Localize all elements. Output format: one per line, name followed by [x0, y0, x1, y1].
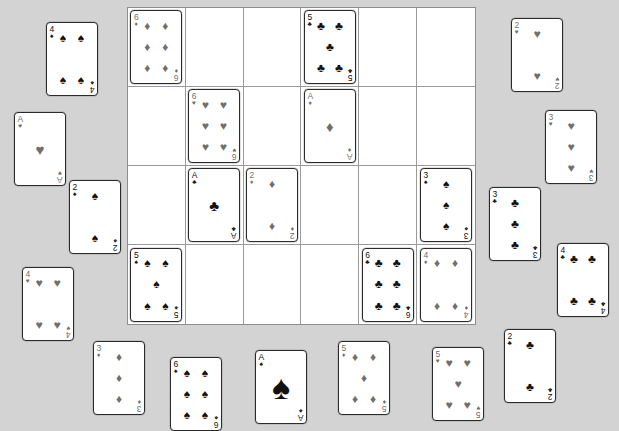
- card-suit-clubs-icon: ♣: [601, 300, 605, 307]
- grid-cell-r2-c3[interactable]: [301, 166, 359, 245]
- card-pip-hearts-icon: ♥: [220, 120, 227, 132]
- card-2-diamonds[interactable]: 2♦2♦♦♦: [246, 168, 298, 242]
- card-pip-hearts-icon: ♥: [202, 99, 209, 111]
- card-suit-spades-icon: ♠: [175, 304, 178, 311]
- card-pip-diamonds-icon: ♦: [162, 20, 168, 32]
- card-4-diamonds[interactable]: 4♦4♦♦♦♦♦: [420, 248, 472, 322]
- card-pip-diamonds-icon: ♦: [434, 300, 440, 312]
- card-3-spades[interactable]: 3♠3♠♠♠♠: [420, 168, 472, 242]
- card-pip-hearts-icon: ♥: [463, 399, 470, 411]
- grid-cell-r1-c1[interactable]: 6♥6♥♥♥♥♥♥♥: [186, 87, 244, 166]
- grid-cell-r1-c3[interactable]: A♦A♦♦: [301, 87, 359, 166]
- card-pip-clubs-icon: ♣: [570, 253, 578, 265]
- grid-cell-r0-c4[interactable]: [359, 8, 417, 87]
- card-pip-hearts-icon: ♥: [567, 162, 574, 174]
- card-pip-diamonds-icon: ♦: [370, 393, 376, 405]
- card-5-spades[interactable]: 5♠5♠♠♠♠♠♠: [130, 248, 182, 322]
- card-pip-spades-icon: ♠: [443, 220, 449, 232]
- card-suit-clubs-icon: ♣: [548, 386, 552, 393]
- card-pip-spades-icon: ♠: [60, 74, 66, 86]
- card-pips: ♠♠: [77, 185, 113, 249]
- card-A-hearts[interactable]: A♥A♥♥: [14, 112, 66, 186]
- card-pip-spades-icon: ♠: [78, 74, 84, 86]
- card-pips: ♥♥♥♥♥♥: [196, 94, 232, 158]
- card-6-clubs[interactable]: 6♣6♣♣♣♣♣♣♣: [362, 248, 414, 322]
- grid-cell-r3-c3[interactable]: [301, 245, 359, 324]
- card-5-hearts[interactable]: 5♥5♥♥♥♥♥♥: [432, 347, 484, 421]
- card-corner-br: 3♣: [533, 244, 537, 259]
- grid-cell-r3-c1[interactable]: [186, 245, 244, 324]
- grid-cell-r2-c5[interactable]: 3♠3♠♠♠♠: [417, 166, 475, 245]
- card-pip-clubs-icon: ♣: [375, 300, 383, 312]
- card-corner-br: 5♥: [476, 404, 480, 419]
- card-4-spades[interactable]: 4♠4♠♠♠♠♠: [46, 22, 98, 96]
- card-pips: ♠♠♠♠♠♠: [178, 362, 214, 426]
- card-pip-spades-icon: ♠: [202, 409, 208, 421]
- card-pip-spades-icon: ♠: [443, 199, 449, 211]
- card-6-hearts[interactable]: 6♥6♥♥♥♥♥♥♥: [188, 89, 240, 163]
- card-suit-hearts-icon: ♥: [476, 404, 480, 411]
- card-center-pip-clubs-icon: ♣: [189, 169, 239, 241]
- grid-cell-r0-c5[interactable]: [417, 8, 475, 87]
- card-pips: ♣♣♣♣: [565, 248, 601, 312]
- card-suit-spades-icon: ♠: [73, 191, 76, 198]
- card-suit-diamonds-icon: ♦: [250, 179, 253, 186]
- grid-cell-r2-c2[interactable]: 2♦2♦♦♦: [244, 166, 302, 245]
- grid-cell-r1-c2[interactable]: [244, 87, 302, 166]
- card-A-clubs[interactable]: A♣A♣♣: [188, 168, 240, 242]
- card-pip-diamonds-icon: ♦: [361, 372, 367, 384]
- card-pips: ♠♠♠♠: [54, 27, 90, 91]
- grid-cell-r2-c0[interactable]: [128, 166, 186, 245]
- card-4-clubs[interactable]: 4♣4♣♣♣♣♣: [557, 243, 609, 317]
- card-suit-diamonds-icon: ♦: [138, 398, 141, 405]
- grid-cell-r2-c4[interactable]: [359, 166, 417, 245]
- card-3-diamonds[interactable]: 3♦3♦♦♦♦: [93, 341, 145, 415]
- card-5-diamonds[interactable]: 5♦5♦♦♦♦♦♦: [338, 341, 390, 415]
- card-pip-spades-icon: ♠: [184, 409, 190, 421]
- grid-cell-r0-c2[interactable]: [244, 8, 302, 87]
- card-suit-diamonds-icon: ♦: [342, 352, 345, 359]
- card-pip-diamonds-icon: ♦: [144, 20, 150, 32]
- card-pip-spades-icon: ♠: [144, 257, 150, 269]
- card-center-pip-hearts-icon: ♥: [15, 113, 65, 185]
- card-pip-hearts-icon: ♥: [202, 141, 209, 153]
- card-pip-diamonds-icon: ♦: [452, 300, 458, 312]
- grid-cell-r0-c0[interactable]: 6♦6♦♦♦♦♦♦♦: [128, 8, 186, 87]
- card-A-diamonds[interactable]: A♦A♦♦: [304, 89, 356, 163]
- grid-cell-r3-c5[interactable]: 4♦4♦♦♦♦♦: [417, 245, 475, 324]
- grid-cell-r1-c0[interactable]: [128, 87, 186, 166]
- card-5-clubs[interactable]: 5♣5♣♣♣♣♣♣: [304, 10, 356, 84]
- card-pip-clubs-icon: ♣: [588, 295, 596, 307]
- card-3-clubs[interactable]: 3♣3♣♣♣♣: [489, 187, 541, 261]
- card-pips: ♥♥♥♥♥: [440, 352, 476, 416]
- card-A-spades[interactable]: A♠A♠♠: [255, 350, 307, 424]
- card-2-hearts[interactable]: 2♥2♥♥♥: [511, 18, 563, 92]
- card-pip-diamonds-icon: ♦: [162, 41, 168, 53]
- card-6-spades[interactable]: 6♠6♠♠♠♠♠♠♠: [170, 357, 222, 431]
- grid-cell-r1-c5[interactable]: [417, 87, 475, 166]
- card-pip-clubs-icon: ♣: [526, 381, 534, 393]
- grid-cell-r1-c4[interactable]: [359, 87, 417, 166]
- card-pips: ♦♦♦♦: [428, 253, 464, 317]
- card-suit-hearts-icon: ♥: [66, 324, 70, 331]
- card-suit-diamonds-icon: ♦: [424, 259, 427, 266]
- grid-cell-r3-c4[interactable]: 6♣6♣♣♣♣♣♣♣: [359, 245, 417, 324]
- card-2-spades[interactable]: 2♠2♠♠♠: [69, 180, 121, 254]
- card-corner-br: 4♣: [601, 300, 605, 315]
- card-6-diamonds[interactable]: 6♦6♦♦♦♦♦♦♦: [130, 10, 182, 84]
- grid-cell-r0-c3[interactable]: 5♣5♣♣♣♣♣♣: [301, 8, 359, 87]
- card-suit-hearts-icon: ♥: [589, 167, 593, 174]
- grid-cell-r0-c1[interactable]: [186, 8, 244, 87]
- card-pip-spades-icon: ♠: [162, 300, 168, 312]
- card-2-clubs[interactable]: 2♣2♣♣♣: [504, 329, 556, 403]
- card-suit-spades-icon: ♠: [114, 237, 117, 244]
- card-4-hearts[interactable]: 4♥4♥♥♥♥♥: [22, 267, 74, 341]
- grid-cell-r3-c0[interactable]: 5♠5♠♠♠♠♠♠: [128, 245, 186, 324]
- card-pips: ♥♥♥♥: [30, 272, 66, 336]
- grid-cell-r2-c1[interactable]: A♣A♣♣: [186, 166, 244, 245]
- card-grid[interactable]: 6♦6♦♦♦♦♦♦♦5♣5♣♣♣♣♣♣6♥6♥♥♥♥♥♥♥A♦A♦♦A♣A♣♣2…: [127, 7, 476, 325]
- card-pip-clubs-icon: ♣: [393, 300, 401, 312]
- card-3-hearts[interactable]: 3♥3♥♥♥♥: [545, 110, 597, 184]
- grid-cell-r3-c2[interactable]: [244, 245, 302, 324]
